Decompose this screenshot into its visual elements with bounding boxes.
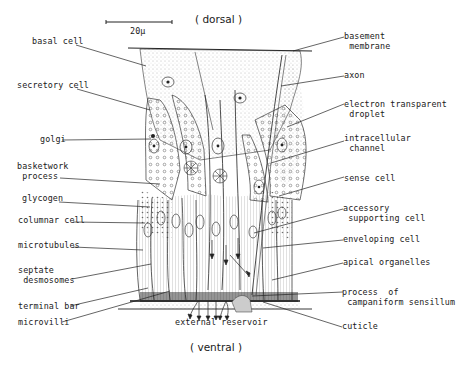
label-terminal-bar: terminal bar [18,302,80,312]
label-external-reservoir: external reservoir [175,318,268,328]
label-cuticle: cuticle [342,322,378,332]
label-basement-membrane: basement membrane [344,32,390,51]
label-enveloping-cell: enveloping cell [343,235,420,245]
label-sense-cell: sense cell [344,174,395,184]
label-apical-organelles: apical organelles [343,258,430,268]
label-basal-cell: basal cell [32,37,83,47]
label-electron-transparent-droplet: electron transparent droplet [344,100,447,119]
orientation-ventral: ( ventral ) [190,341,242,353]
label-basketwork-process: basketwork process [17,162,68,181]
label-axon: axon [344,71,365,81]
scale-bar-label: 20µ [130,27,145,37]
label-septate-desmosomes: septate desmosomes [18,266,75,285]
label-columnar-cell: columnar cell [18,216,85,226]
label-microvilli: microvilli [18,318,69,328]
scale-bar [106,20,172,24]
label-golgi: golgi [40,135,66,145]
label-accessory-supporting-cell: accessory supporting cell [343,204,425,223]
label-process-of-campaniform-sensillum: process of campaniform sensillum [342,288,455,307]
label-microtubules: microtubules [18,241,80,251]
label-glycogen: glycogen [22,194,63,204]
label-intracellular-channel: intracellular channel [344,134,411,153]
orientation-dorsal: ( dorsal ) [195,13,242,25]
label-secretory-cell: secretory cell [17,81,89,91]
